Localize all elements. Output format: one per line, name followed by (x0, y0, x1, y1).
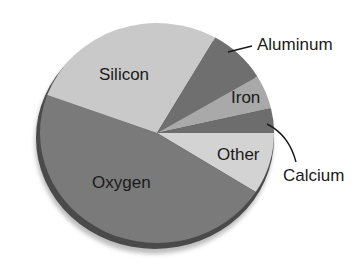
pie-slices (40, 23, 274, 243)
label-oxygen: Oxygen (92, 173, 151, 192)
pie-chart: Silicon Oxygen Other Iron Aluminum Calci… (0, 0, 356, 268)
label-silicon: Silicon (99, 65, 149, 84)
label-other: Other (217, 145, 260, 164)
label-calcium: Calcium (283, 166, 344, 185)
label-aluminum: Aluminum (257, 35, 333, 54)
label-iron: Iron (231, 88, 260, 107)
